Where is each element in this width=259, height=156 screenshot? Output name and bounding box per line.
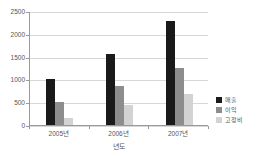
x-axis-title: 년도 [29,141,208,151]
y-axis-tick-label: 500 [14,100,25,107]
legend-swatch-icon [216,97,222,103]
bar-group [166,12,193,125]
bar [106,54,115,125]
plot-area [29,12,208,126]
x-axis-tick-mark [29,126,30,129]
bar [184,94,193,125]
y-axis: 05001000150020002500 [0,0,29,156]
chart-legend: 매출이익고정비 [216,96,259,126]
legend-label: 이익 [225,107,237,113]
bar-chart: 05001000150020002500 2005년2006년2007년 년도 … [0,0,259,156]
y-axis-tick-label: 0 [21,123,25,130]
x-axis-tick-mark [208,126,209,129]
x-axis-tick-mark [89,126,90,129]
y-axis-tick-label: 1000 [11,77,25,84]
bar [64,118,73,125]
bar-group [46,12,73,125]
bar [175,68,184,125]
y-axis-tick-label: 2500 [11,9,25,16]
legend-item[interactable]: 고정비 [216,116,259,123]
gridline [30,126,208,127]
x-axis-tick-mark [148,126,149,129]
legend-label: 매출 [225,97,237,103]
x-axis-tick-label: 2007년 [168,128,188,138]
bar [46,79,55,125]
bar [115,86,124,125]
legend-item[interactable]: 매출 [216,96,259,103]
y-axis-tick-label: 2000 [11,32,25,39]
x-axis-tick-label: 2006년 [108,128,128,138]
legend-swatch-icon [216,117,222,123]
bar [166,21,175,125]
legend-item[interactable]: 이익 [216,106,259,113]
legend-label: 고정비 [225,117,243,123]
y-axis-tick-label: 1500 [11,54,25,61]
legend-swatch-icon [216,107,222,113]
x-axis-tick-label: 2005년 [49,128,69,138]
x-axis-category-labels: 2005년2006년2007년 [29,128,208,140]
bar [124,105,133,125]
bar-group [106,12,133,125]
bar [55,102,64,125]
